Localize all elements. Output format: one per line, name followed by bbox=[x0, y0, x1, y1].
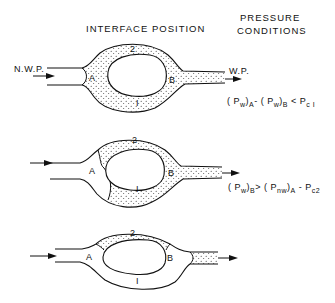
label-a: A bbox=[89, 73, 95, 83]
label-branch-2: 2 bbox=[130, 228, 135, 238]
label-b: B bbox=[168, 168, 174, 178]
arrow-out-icon bbox=[229, 255, 238, 261]
diagram-2 bbox=[30, 140, 240, 207]
grain bbox=[103, 240, 166, 275]
label-branch-1: I bbox=[136, 98, 139, 108]
label-b: B bbox=[167, 253, 173, 263]
arrow-in-icon bbox=[48, 253, 57, 259]
arrow-in-icon bbox=[44, 160, 53, 166]
label-branch-2: 2 bbox=[132, 135, 137, 145]
label-branch-1: I bbox=[136, 276, 139, 286]
label-a: A bbox=[86, 252, 92, 262]
pressure-condition-2: ( Pw)B> ( Pnw)A - Pc2 bbox=[228, 182, 320, 194]
wetting-fluid-right-tube bbox=[190, 252, 218, 264]
pressure-condition-1: ( Pw)A- ( Pw)B < Pc I bbox=[227, 96, 315, 108]
arrow-out-icon bbox=[231, 170, 240, 176]
label-branch-1: I bbox=[136, 184, 139, 194]
label-a: A bbox=[89, 166, 95, 176]
wp-label: W.P. bbox=[229, 66, 249, 76]
grain bbox=[108, 54, 167, 96]
nwp-label: N.W.P. bbox=[14, 64, 44, 74]
label-branch-2: 2 bbox=[130, 44, 135, 54]
diagram-3 bbox=[30, 234, 238, 289]
arrow-out-icon bbox=[233, 76, 242, 82]
arrow-in-icon bbox=[46, 73, 55, 79]
label-b: B bbox=[169, 75, 175, 85]
